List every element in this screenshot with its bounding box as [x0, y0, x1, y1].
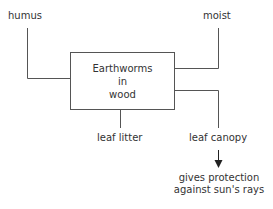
center-box: Earthworms in wood — [70, 52, 175, 110]
humus-label: humus — [8, 10, 42, 22]
leaf-canopy-connector — [175, 91, 219, 129]
moist-label: moist — [203, 10, 231, 22]
arrow-head-icon — [215, 160, 223, 168]
result-line-2: against sun's rays — [172, 184, 266, 196]
result-line-1: gives protection — [176, 172, 262, 184]
moist-connector — [175, 28, 219, 69]
leaf-canopy-label: leaf canopy — [189, 132, 247, 144]
center-line-2: in — [118, 75, 127, 88]
center-line-3: wood — [109, 88, 136, 101]
humus-connector — [28, 28, 71, 79]
leaf-litter-label: leaf litter — [97, 132, 142, 144]
center-line-1: Earthworms — [93, 62, 153, 75]
